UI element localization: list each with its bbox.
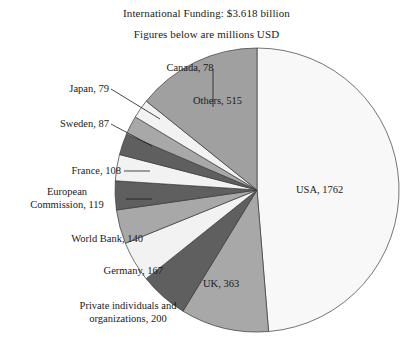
callout-private-individuals: Private individuals and organizations, 2… (54, 300, 202, 325)
slice-label-others: Others, 515 (193, 95, 242, 108)
callout-sweden: Sweden, 87 (21, 118, 109, 131)
callout-germany: Germany, 167 (50, 265, 163, 278)
slice-label-usa: USA, 1762 (296, 184, 343, 197)
callout-private-individuals-line2: organizations, 200 (54, 313, 202, 326)
callout-world-bank: World Bank, 140 (30, 233, 143, 246)
slice-label-uk: UK, 363 (203, 278, 239, 291)
callout-canada: Canada, 78 (150, 62, 230, 75)
callout-japan: Japan, 79 (21, 83, 109, 96)
pie-chart-figure: International Funding: $3.618 billion Fi… (0, 0, 413, 348)
callout-european-commission-line1: European (10, 186, 124, 199)
callout-european-commission-line2: Commission, 119 (10, 199, 124, 212)
callout-private-individuals-line1: Private individuals and (54, 300, 202, 313)
callout-france: France, 108 (24, 165, 121, 178)
callout-european-commission: European Commission, 119 (10, 186, 124, 211)
pie-slices (115, 48, 399, 332)
